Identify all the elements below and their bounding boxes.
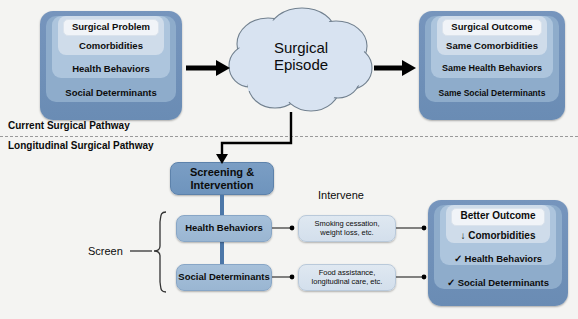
diagram-canvas: Surgical Problem Comorbidities Health Be…: [0, 0, 578, 319]
stack-row-surgical-problem: Surgical Problem: [40, 20, 182, 34]
stack-row-same-health-behaviors: Same Health Behaviors: [419, 62, 565, 76]
screen-brace: [130, 212, 166, 292]
cloud-label: Surgical Episode: [228, 40, 374, 74]
intervene-label: Intervene: [318, 189, 364, 201]
improved-outcome-stack: Better Outcome ↓ Comorbidities ✓ Health …: [428, 200, 568, 306]
current-pathway-label: Current Surgical Pathway: [8, 120, 130, 131]
stack-row-check-social-determinants: ✓ Social Determinants: [428, 276, 568, 290]
screen-label: Screen: [88, 245, 123, 257]
arrow-input-to-cloud: [186, 60, 230, 76]
stack-row-reduced-comorbidities: ↓ Comorbidities: [428, 229, 568, 243]
screen-item-social-determinants[interactable]: Social Determinants: [176, 264, 272, 291]
stack-row-social-determinants: Social Determinants: [40, 86, 182, 100]
arrow-cloud-to-output: [374, 60, 416, 76]
longitudinal-pathway-label: Longitudinal Surgical Pathway: [8, 140, 154, 151]
postoperative-status-stack: Surgical Outcome Same Comorbidities Same…: [419, 11, 565, 120]
stack-row-check-health-behaviors: ✓ Health Behaviors: [428, 252, 568, 266]
screening-intervention-box[interactable]: Screening & Intervention: [170, 162, 274, 195]
pathway-divider-line: [0, 136, 578, 137]
stack-row-comorbidities: Comorbidities: [40, 39, 182, 53]
elbow-cloud-to-screening: [216, 112, 291, 164]
surgical-episode-cloud: Surgical Episode: [228, 6, 374, 118]
stack-row-same-comorbidities: Same Comorbidities: [419, 39, 565, 53]
preoperative-factors-stack: Surgical Problem Comorbidities Health Be…: [40, 11, 182, 120]
stack-row-surgical-outcome: Surgical Outcome: [419, 20, 565, 34]
screen-item-health-behaviors[interactable]: Health Behaviors: [176, 215, 272, 242]
intervention-food-longitudinal-box[interactable]: Food assistance, longitudinal care, etc.: [298, 264, 396, 291]
stack-row-better-outcome: Better Outcome: [428, 209, 568, 224]
intervention-smoking-weight-box[interactable]: Smoking cessation, weight loss, etc.: [298, 215, 396, 242]
stack-row-same-social-determinants: Same Social Determinants: [419, 86, 565, 100]
stack-row-health-behaviors: Health Behaviors: [40, 62, 182, 76]
